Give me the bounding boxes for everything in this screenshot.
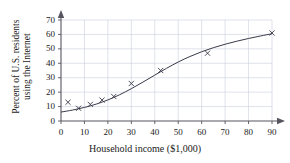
y-axis-title-line1: Percent of U.S. residents (11, 0, 22, 141)
x-tick-label: 70 (215, 128, 235, 137)
y-tick-label: 70 (37, 16, 55, 25)
y-axis-title-line2: using the Internet (22, 0, 33, 141)
y-tick-label: 20 (37, 88, 55, 97)
chart-figure: 010203040506070 0102030405060708090 Hous… (0, 0, 290, 163)
x-tick-label: 90 (262, 128, 282, 137)
y-tick-label: 0 (37, 117, 55, 126)
y-axis-title: Percent of U.S. residents using the Inte… (11, 0, 32, 141)
x-tick-label: 60 (192, 128, 212, 137)
y-tick-label: 60 (37, 30, 55, 39)
fit-curve (61, 34, 272, 112)
x-tick-label: 50 (168, 128, 188, 137)
x-tick-label: 0 (51, 128, 71, 137)
y-tick-label: 50 (37, 44, 55, 53)
y-tick-label: 30 (37, 73, 55, 82)
data-point-marker (65, 100, 70, 105)
data-markers (65, 30, 274, 111)
x-tick-label: 30 (121, 128, 141, 137)
y-tick-label: 40 (37, 59, 55, 68)
y-axis-arrowhead (58, 10, 64, 18)
gridlines (61, 20, 272, 121)
x-axis-arrowhead (277, 118, 285, 124)
x-tick-label: 80 (239, 128, 259, 137)
x-tick-label: 40 (145, 128, 165, 137)
axis-lines (58, 10, 285, 124)
trend-line (61, 34, 272, 112)
data-point-marker (205, 51, 210, 56)
tick-marks (58, 20, 272, 124)
x-tick-label: 20 (98, 128, 118, 137)
x-axis-title: Household income ($1,000) (0, 144, 290, 154)
y-tick-label: 10 (37, 102, 55, 111)
x-tick-label: 10 (74, 128, 94, 137)
